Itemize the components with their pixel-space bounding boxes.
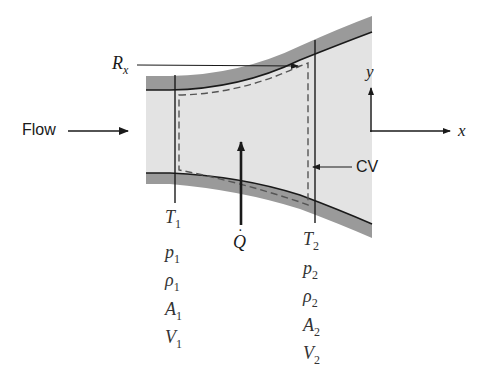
- y-axis-label: y: [366, 62, 374, 82]
- station-1-rho: ρ1: [165, 269, 182, 298]
- rx-symbol: R: [112, 53, 123, 73]
- station-2-V: V2: [303, 342, 320, 368]
- station-1-T: T1: [165, 206, 182, 235]
- station-2-T: T2: [303, 228, 320, 257]
- station-1-p: p1: [165, 241, 182, 270]
- heat-label: · Q: [233, 232, 246, 253]
- station-2-properties: T2 p2 ρ2 A2 V2: [303, 228, 320, 368]
- station-1-A: A1: [165, 298, 182, 327]
- station-1-V: V1: [165, 326, 182, 355]
- station-1-properties: T1 p1 ρ1 A1 V1: [165, 206, 182, 355]
- x-axis-label: x: [458, 121, 466, 141]
- flow-label: Flow: [22, 121, 56, 139]
- rx-label: Rx: [112, 53, 128, 78]
- station-2-rho: ρ2: [303, 285, 320, 314]
- rx-subscript: x: [123, 63, 128, 77]
- cv-label: CV: [356, 158, 378, 176]
- station-2-p: p2: [303, 257, 320, 286]
- station-2-A: A2: [303, 314, 320, 343]
